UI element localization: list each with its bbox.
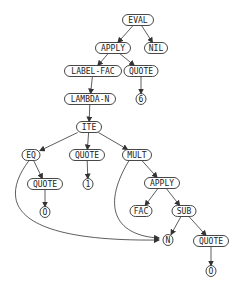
node-label: QUOTE xyxy=(33,180,57,189)
node-nil: NIL xyxy=(145,43,168,54)
node-quote3: QUOTE xyxy=(28,179,63,190)
node-label: QUOTE xyxy=(75,151,99,160)
expression-tree-diagram: EVALAPPLYNILLABEL-FACQUOTELAMBDA-N6ITEEQ… xyxy=(0,0,245,294)
node-label: NIL xyxy=(149,44,164,53)
edge-apply2-to-sub xyxy=(166,189,179,206)
edge-apply2-to-fac xyxy=(145,189,158,206)
node-label: QUOTE xyxy=(199,237,223,246)
edge-eq-to-quote3 xyxy=(34,161,43,179)
node-apply1: APPLY xyxy=(96,43,131,54)
node-label: SUB xyxy=(177,207,192,216)
edge-eval-to-apply1 xyxy=(118,26,133,43)
node-apply2: APPLY xyxy=(145,178,180,189)
node-labelfac: LABEL-FAC xyxy=(65,66,122,77)
node-label: ITE xyxy=(82,123,97,132)
edge-labelfac-to-lambdan xyxy=(91,77,93,94)
node-six: 6 xyxy=(136,94,146,105)
edge-apply1-to-labelfac xyxy=(98,54,108,66)
node-ite: ITE xyxy=(77,122,102,133)
nodes: EVALAPPLYNILLABEL-FACQUOTELAMBDA-N6ITEEQ… xyxy=(22,15,229,277)
node-label: APPLY xyxy=(150,179,174,188)
edge-ite-to-eq xyxy=(40,133,78,151)
node-quote1: QUOTE xyxy=(124,66,158,77)
node-label: EQ xyxy=(26,151,36,160)
node-mult: MULT xyxy=(123,150,152,161)
node-label: N xyxy=(166,236,171,245)
node-eval: EVAL xyxy=(123,15,154,26)
edge-eval-to-nil xyxy=(142,26,153,43)
node-n: N xyxy=(163,235,173,246)
node-label: QUOTE xyxy=(129,67,153,76)
edge-ite-to-quote2 xyxy=(87,133,88,150)
node-label: 6 xyxy=(139,95,144,104)
node-label: APPLY xyxy=(101,44,125,53)
node-fac: FAC xyxy=(130,206,152,217)
edge-apply1-to-quote1 xyxy=(120,54,135,66)
node-quote4: QUOTE xyxy=(194,236,229,247)
edge-sub-to-quote4 xyxy=(189,217,206,236)
node-zero1: O xyxy=(40,207,50,218)
node-label: O xyxy=(209,267,214,276)
node-lambdan: LAMBDA-N xyxy=(65,94,116,105)
node-sub: SUB xyxy=(172,206,196,217)
edge-mult-to-apply2 xyxy=(142,161,157,178)
edge-ite-to-mult xyxy=(98,133,127,150)
node-label: 1 xyxy=(86,180,91,189)
node-eq: EQ xyxy=(22,150,40,161)
edge-sub-to-n xyxy=(171,217,181,235)
node-label: O xyxy=(43,208,48,217)
node-label: LABEL-FAC xyxy=(71,67,115,76)
node-label: EVAL xyxy=(128,16,147,25)
node-label: LAMBDA-N xyxy=(71,95,110,104)
node-label: MULT xyxy=(127,151,146,160)
node-label: FAC xyxy=(134,207,149,216)
edge-quote2-to-one xyxy=(87,161,88,179)
node-one: 1 xyxy=(83,179,93,190)
edges xyxy=(15,26,211,266)
node-zero2: O xyxy=(206,266,216,277)
edge-lambdan-to-ite xyxy=(89,105,90,122)
node-quote2: QUOTE xyxy=(70,150,105,161)
